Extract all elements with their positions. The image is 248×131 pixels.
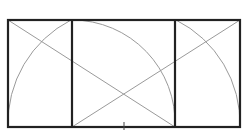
right-arc: [176, 20, 240, 127]
diagonal-line-2: [72, 20, 240, 127]
diagonal-line-1: [8, 20, 175, 127]
golden-rectangle-diagram: [0, 0, 248, 131]
diagram-canvas: [0, 0, 248, 131]
middle-arc: [72, 20, 175, 127]
left-arc: [8, 20, 71, 127]
outer-frame: [8, 20, 240, 127]
